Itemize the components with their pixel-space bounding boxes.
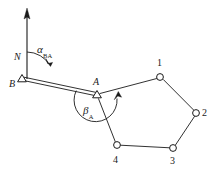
north-label: N [14,52,21,62]
edge-b-a [24,77,97,96]
traverse-angle-subscript: A [89,113,94,120]
edge-3-4 [120,145,170,148]
traverse-angle-label: βA [83,105,93,119]
azimuth-angle-symbol: α [37,43,43,55]
azimuth-angle-subscript: BA [43,52,52,59]
point-b-label: B [9,79,15,89]
edge-b-a-line-upper [24,77,97,92]
edge-b-a-line-lower [24,81,97,96]
station-1-circle-marker[interactable] [157,74,164,81]
station-3-label: 3 [170,156,175,166]
station-4-circle-marker[interactable] [114,142,121,149]
traverse-diagram-svg [0,0,222,179]
azimuth-arc-arrowhead [46,59,53,67]
traverse-station-markers [114,74,200,152]
traverse-angle-symbol: β [83,104,88,116]
edge-1-2 [163,79,194,110]
station-4-label: 4 [113,155,118,165]
edge-2-3 [175,116,195,145]
station-1-label: 1 [157,58,162,68]
north-arrow [24,8,30,79]
beta-arc-arrowhead [114,92,121,100]
station-2-circle-marker[interactable] [193,110,200,117]
traverse-figure: N αBA B A βA 1 2 3 4 [0,0,222,179]
point-a-label: A [93,77,99,87]
station-3-circle-marker[interactable] [170,145,177,152]
azimuth-angle-label: αBA [37,44,52,58]
edge-4-a [98,98,115,142]
edge-a-1 [100,78,158,93]
point-b-triangle-marker[interactable] [18,75,27,82]
station-2-label: 2 [202,108,207,118]
